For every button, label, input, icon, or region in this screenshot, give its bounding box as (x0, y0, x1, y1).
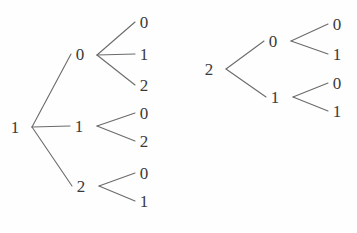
left-tree-edge-child0-leaf-1 (97, 54, 135, 55)
right-tree-edge-root-child-0 (226, 41, 264, 69)
right-tree-child0-leaf-1-label: 1 (333, 46, 342, 63)
right-tree-edge-child1-leaf-0 (293, 83, 328, 97)
right-tree-edge-child1-leaf-1 (293, 97, 328, 111)
left-tree-edge-child2-leaf-1 (99, 186, 135, 201)
right-tree-root-label: 2 (205, 61, 214, 78)
left-tree-edge-child0-leaf-0 (97, 22, 135, 55)
right-tree-child0-leaf-0-label: 0 (333, 16, 342, 33)
left-tree-root-label: 1 (11, 119, 20, 136)
left-tree-edge-root-child-2 (32, 127, 72, 186)
left-tree-child2-leaf-1-label: 1 (140, 193, 149, 210)
left-tree-child-1-label: 1 (75, 118, 84, 135)
right-tree-child-1-label: 1 (271, 89, 280, 106)
left-tree-child0-leaf-2-label: 2 (140, 77, 149, 94)
left-tree-edge-root-child-0 (32, 54, 71, 127)
left-tree-edge-child1-leaf-1 (97, 126, 135, 141)
left-tree-edge-root-child-1 (32, 126, 70, 127)
left-tree-child-0-label: 0 (76, 46, 85, 63)
right-tree-child-0-label: 0 (269, 33, 278, 50)
left-tree-edge-child1-leaf-0 (97, 113, 135, 126)
left-tree-child2-leaf-0-label: 0 (140, 165, 149, 182)
left-tree-child0-leaf-0-label: 0 (140, 14, 149, 31)
left-tree-child1-leaf-1-label: 2 (140, 133, 149, 150)
right-tree-child1-leaf-1-label: 1 (333, 103, 342, 120)
right-tree-child1-leaf-0-label: 0 (333, 75, 342, 92)
left-tree-child-2-label: 2 (77, 178, 86, 195)
left-tree-child1-leaf-0-label: 0 (140, 105, 149, 122)
right-tree-edge-child0-leaf-0 (291, 24, 328, 41)
left-tree-child0-leaf-1-label: 1 (140, 46, 149, 63)
left-tree-edge-child0-leaf-2 (97, 55, 135, 85)
right-tree-edge-root-child-1 (226, 69, 266, 97)
tree-edges-layer (0, 0, 357, 233)
tree-diagram-canvas: 100121022012001101 (0, 0, 357, 233)
left-tree-edge-child2-leaf-0 (99, 173, 135, 186)
right-tree-edge-child0-leaf-1 (291, 41, 328, 54)
